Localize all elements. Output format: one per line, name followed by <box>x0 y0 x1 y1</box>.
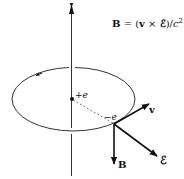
plus-e-label: +e <box>75 90 88 100</box>
minus-e-label: −e <box>104 112 117 122</box>
magnetic-field-diagram: +e −e v ℰ B B = (v × ℰ)/c2 <box>0 0 184 179</box>
velocity-vector <box>114 104 149 124</box>
axis-arrowhead-icon <box>69 4 74 14</box>
v-label: v <box>148 104 156 115</box>
E-label: ℰ <box>160 154 167 167</box>
equation: B = (v × ℰ)/c2 <box>112 17 183 29</box>
B-label: B <box>118 159 126 170</box>
electric-field-vector <box>114 124 157 156</box>
